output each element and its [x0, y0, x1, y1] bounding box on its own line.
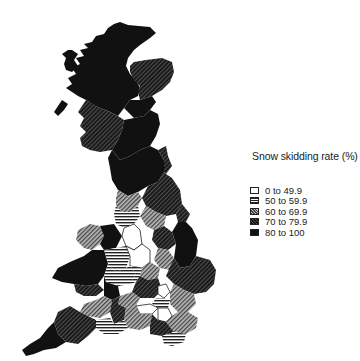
legend-item-50-59: 50 to 59.9 [250, 196, 307, 206]
swatch-light-diagonal [250, 208, 259, 215]
legend-label: 50 to 59.9 [265, 195, 307, 206]
legend-item-80-100: 80 to 100 [250, 227, 307, 237]
swatch-dark-diagonal [250, 218, 259, 225]
swatch-white [250, 187, 259, 194]
swatch-horizontal-lines [250, 197, 259, 204]
legend-item-0-49: 0 to 49.9 [250, 185, 307, 195]
region-staffordshire [126, 244, 150, 268]
region-cambridgeshire-white [158, 284, 170, 298]
legend-item-60-69: 60 to 69.9 [250, 206, 307, 216]
region-dorset [96, 318, 128, 334]
legend-label: 0 to 49.9 [265, 185, 302, 196]
legend-label: 60 to 69.9 [265, 206, 307, 217]
legend-label: 80 to 100 [265, 227, 305, 238]
legend-item-70-79: 70 to 79.9 [250, 217, 307, 227]
region-gwynedd [76, 224, 104, 250]
legend: 0 to 49.9 50 to 59.9 60 to 69.9 70 to 79… [250, 185, 307, 238]
region-isles-small [54, 100, 68, 116]
region-dyfed-powys [52, 250, 108, 286]
swatch-solid-black [250, 229, 259, 236]
legend-label: 70 to 79.9 [265, 216, 307, 227]
choropleth-map [0, 0, 360, 361]
legend-title: Snow skidding rate (%) [252, 150, 358, 162]
region-glamorgan [74, 284, 104, 296]
region-south-yorkshire [152, 226, 176, 250]
